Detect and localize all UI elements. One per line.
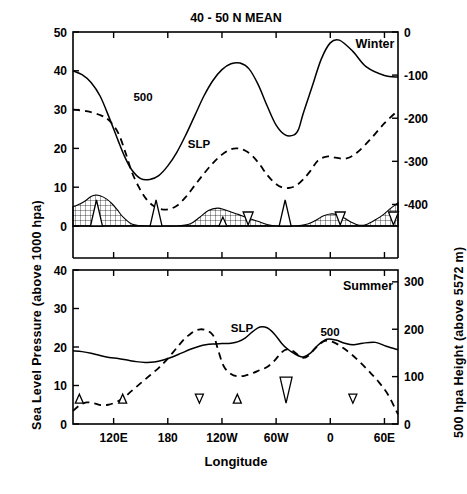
summer-ytick-label-right: 0 <box>404 418 411 432</box>
x-axis-tick-label: 120W <box>206 431 238 445</box>
x-axis-tick-label: 0 <box>327 431 334 445</box>
winter-terrain-box <box>73 226 398 258</box>
summer-marker-down <box>280 377 292 403</box>
winter-series-slp <box>73 110 398 210</box>
summer-ytick-label-right: 300 <box>404 275 424 289</box>
winter-ytick-label-right: -100 <box>404 69 428 83</box>
winter-ytick-label-right: -200 <box>404 112 428 126</box>
summer-label-500: 500 <box>320 326 339 338</box>
winter-label-500: 500 <box>133 91 152 103</box>
summer-marker-down <box>195 394 203 403</box>
winter-ytick-label: 20 <box>54 142 68 156</box>
y-axis-label-left: Sea Level Pressure (above 1000 hpa) <box>30 200 44 430</box>
winter-series-500 <box>73 40 398 180</box>
winter-ytick-label: 30 <box>54 103 68 117</box>
x-axis-label: Longitude <box>205 454 268 469</box>
winter-ytick-label-right: 0 <box>404 26 411 40</box>
winter-ytick-label: 40 <box>54 64 68 78</box>
x-axis-tick-label: 60W <box>264 431 289 445</box>
y-axis-label-right: 500 hpa Height (above 5572 m) <box>452 247 466 438</box>
winter-panel-label: Winter <box>356 37 395 51</box>
summer-ytick-label: 0 <box>60 418 67 432</box>
winter-ytick-label-right: -400 <box>404 198 428 212</box>
summer-marker-up <box>75 394 83 403</box>
winter-ytick-label-right: -300 <box>404 155 428 169</box>
winter-plot-frame <box>73 32 398 226</box>
x-axis-tick-label: 60E <box>374 431 395 445</box>
winter-ytick-label: 10 <box>54 181 68 195</box>
x-axis-tick-label: 120E <box>100 431 128 445</box>
x-axis-tick-label: 180 <box>158 431 178 445</box>
winter-ytick-label: 50 <box>54 26 68 40</box>
summer-ytick-label-right: 200 <box>404 323 424 337</box>
chart-title: 40 - 50 N MEAN <box>190 11 282 25</box>
summer-ytick-label: 40 <box>54 264 68 278</box>
summer-ytick-label: 10 <box>54 379 68 393</box>
winter-ytick-label: 0 <box>60 220 67 234</box>
summer-marker-down <box>349 394 357 403</box>
summer-panel-label: Summer <box>343 279 393 293</box>
summer-label-slp: SLP <box>231 322 254 334</box>
summer-marker-up <box>119 394 127 403</box>
winter-marker-up <box>279 200 291 226</box>
summer-ytick-label-right: 100 <box>404 370 424 384</box>
figure-root: 40 - 50 N MEAN010203040500-100-200-300-4… <box>0 0 467 494</box>
summer-ytick-label: 30 <box>54 302 68 316</box>
summer-marker-up <box>233 394 241 403</box>
winter-topography <box>73 195 398 226</box>
winter-label-slp: SLP <box>188 138 211 150</box>
summer-ytick-label: 20 <box>54 341 68 355</box>
